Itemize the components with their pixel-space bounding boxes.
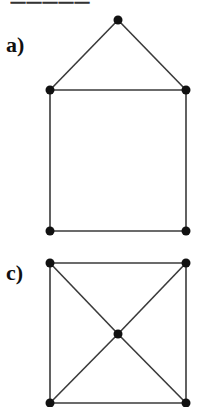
graph-edge — [118, 334, 186, 403]
graph-edge — [50, 20, 118, 90]
graph-node-br — [182, 227, 191, 236]
graph-node-tr — [182, 86, 191, 95]
diagram-a-house-graph — [46, 16, 191, 236]
graph-edge — [118, 20, 186, 90]
graph-node-tl — [46, 259, 55, 268]
graph-diagrams — [0, 0, 207, 407]
graph-edge — [50, 334, 118, 403]
graph-node-tr — [182, 259, 191, 268]
graph-node-bl — [46, 227, 55, 236]
graph-edge — [118, 263, 186, 334]
graph-node-tl — [46, 86, 55, 95]
graph-node-apex — [114, 16, 123, 25]
graph-edge — [50, 263, 118, 334]
diagram-c-wheel-graph — [46, 259, 191, 407]
graph-node-center — [114, 330, 123, 339]
